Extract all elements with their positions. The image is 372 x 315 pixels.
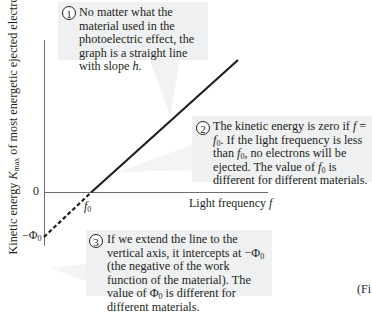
y-axis-label: Kinetic energy Kmax of most energetic ej… <box>6 45 21 255</box>
tick-f0: f0 <box>84 199 91 214</box>
tick-neg-phi0: −Φ0 <box>22 228 42 243</box>
x-axis-label: Light frequency f <box>189 196 272 211</box>
figure-caption-fragment: (Fi <box>357 282 371 297</box>
tick-zero: 0 <box>33 184 39 199</box>
kinetic-energy-line <box>91 60 238 193</box>
